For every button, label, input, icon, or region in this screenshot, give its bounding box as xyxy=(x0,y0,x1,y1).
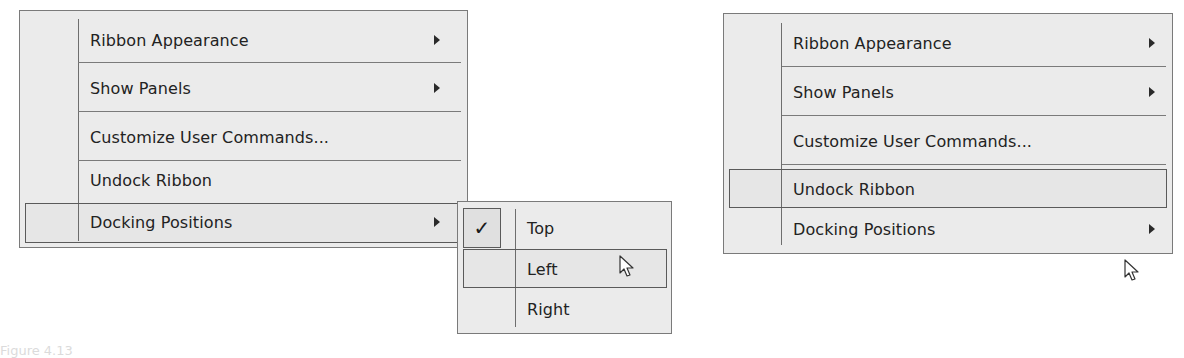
context-menu-left: Ribbon Appearance Show Panels Customize … xyxy=(19,10,468,248)
menu-item-label: Left xyxy=(527,259,558,278)
menu-item-label: Show Panels xyxy=(90,78,191,97)
context-menu-right: Ribbon Appearance Show Panels Customize … xyxy=(723,13,1173,254)
menu-item-label: Undock Ribbon xyxy=(90,171,212,190)
menu-item-label: Docking Positions xyxy=(793,220,935,239)
menu-item-label: Show Panels xyxy=(793,82,894,101)
menu-item-label: Ribbon Appearance xyxy=(90,30,249,49)
menu-item-customize-user-commands[interactable]: Customize User Commands... xyxy=(20,112,467,161)
docking-positions-submenu: ✓ Top Left Right xyxy=(457,201,672,334)
menu-item-show-panels[interactable]: Show Panels xyxy=(20,63,467,112)
submenu-arrow-icon xyxy=(434,217,440,227)
submenu-item-left[interactable]: Left xyxy=(458,249,671,288)
menu-item-label: Top xyxy=(527,219,554,238)
menu-item-undock-ribbon[interactable]: Undock Ribbon xyxy=(20,157,467,203)
menu-item-docking-positions[interactable]: Docking Positions xyxy=(724,209,1172,249)
menu-item-undock-ribbon[interactable]: Undock Ribbon xyxy=(724,169,1172,208)
submenu-arrow-icon xyxy=(434,35,440,45)
mouse-cursor-icon xyxy=(1124,259,1142,283)
menu-item-label: Customize User Commands... xyxy=(793,131,1032,150)
menu-item-label: Customize User Commands... xyxy=(90,127,329,146)
menu-item-show-panels[interactable]: Show Panels xyxy=(724,67,1172,116)
menu-item-ribbon-appearance[interactable]: Ribbon Appearance xyxy=(724,18,1172,67)
mouse-cursor-icon xyxy=(619,255,637,279)
submenu-item-right[interactable]: Right xyxy=(458,289,671,329)
menu-item-docking-positions[interactable]: Docking Positions xyxy=(20,199,467,245)
figure-caption: Figure 4.13 xyxy=(0,343,73,358)
menu-item-label: Docking Positions xyxy=(90,213,232,232)
submenu-arrow-icon xyxy=(1149,87,1155,97)
menu-item-label: Ribbon Appearance xyxy=(793,33,952,52)
submenu-arrow-icon xyxy=(434,83,440,93)
menu-item-label: Undock Ribbon xyxy=(793,179,915,198)
submenu-arrow-icon xyxy=(1149,224,1155,234)
submenu-item-top[interactable]: Top xyxy=(458,208,671,248)
menu-item-label: Right xyxy=(527,300,570,319)
menu-separator xyxy=(782,164,1166,165)
menu-item-customize-user-commands[interactable]: Customize User Commands... xyxy=(724,116,1172,165)
menu-item-ribbon-appearance[interactable]: Ribbon Appearance xyxy=(20,15,467,64)
submenu-arrow-icon xyxy=(1149,38,1155,48)
